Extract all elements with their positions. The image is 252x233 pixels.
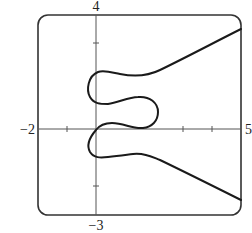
y-max-label: 4 (93, 0, 100, 14)
x-max-label: 5 (245, 122, 252, 137)
chart: 4 −3 −2 5 (0, 0, 252, 233)
curve-line (88, 29, 241, 200)
x-min-label: −2 (20, 122, 35, 137)
y-min-label: −3 (89, 218, 104, 233)
